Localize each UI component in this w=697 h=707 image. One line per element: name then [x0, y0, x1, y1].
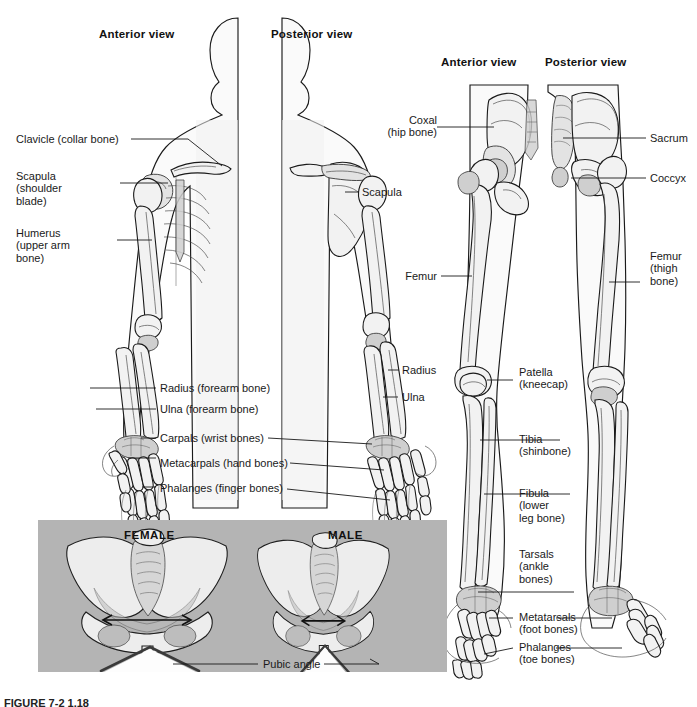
male-pelvis-label: MALE — [328, 529, 363, 541]
label-metacarpals: Metacarpals (hand bones) — [160, 457, 288, 469]
label-tibia: Tibia (shinbone) — [519, 433, 571, 458]
label-phalanges-toe: Phalanges (toe bones) — [519, 641, 575, 666]
label-pubic-angle: Pubic angle — [263, 658, 321, 670]
label-femur-anterior: Femur — [377, 270, 437, 282]
female-pelvis-label: FEMALE — [124, 529, 175, 541]
lower-posterior-view-label: Posterior view — [545, 56, 626, 68]
label-humerus: Humerus (upper arm bone) — [16, 227, 70, 264]
male-pelvis-illustration — [258, 533, 389, 672]
label-patella: Patella (kneecap) — [519, 366, 568, 391]
label-radius-forearm: Radius (forearm bone) — [160, 382, 270, 394]
label-tarsals: Tarsals (ankle bones) — [519, 548, 554, 585]
lower-anterior-view-label: Anterior view — [441, 56, 516, 68]
label-metatarsals: Metatarsals (foot bones) — [519, 611, 578, 636]
label-clavicle: Clavicle (collar bone) — [16, 133, 119, 145]
anatomy-figure: Anterior view Posterior view Clavicle (c… — [0, 0, 697, 707]
label-scapula-anterior: Scapula (shoulder blade) — [16, 170, 62, 207]
label-ulna-posterior: Ulna — [402, 391, 425, 403]
label-femur-posterior: Femur (thigh bone) — [650, 250, 682, 287]
label-ulna-forearm: Ulna (forearm bone) — [160, 403, 258, 415]
label-scapula-posterior: Scapula — [362, 186, 402, 198]
figure-caption: FIGURE 7-2 1.18 — [4, 697, 89, 707]
label-phalanges-finger: Phalanges (finger bones) — [160, 482, 283, 494]
label-coccyx: Coccyx — [650, 172, 686, 184]
label-coxal: Coxal (hip bone) — [357, 114, 437, 139]
label-carpals: Carpals (wrist bones) — [160, 432, 264, 444]
label-radius-posterior: Radius — [402, 364, 436, 376]
label-sacrum: Sacrum — [650, 132, 688, 144]
label-fibula: Fibula (lower leg bone) — [519, 487, 565, 524]
upper-posterior-view-label: Posterior view — [271, 28, 352, 40]
female-pelvis-illustration — [67, 529, 227, 672]
upper-anterior-view-label: Anterior view — [99, 28, 174, 40]
pelvis-comparison-panel: FEMALE MALE Pubic angle — [38, 520, 447, 672]
